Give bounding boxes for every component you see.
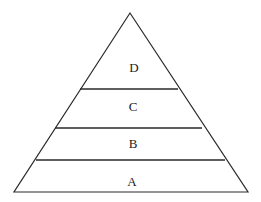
level-label-d: D [129, 60, 138, 75]
level-label-b: B [129, 136, 138, 151]
level-label-c: C [129, 99, 138, 114]
pyramid-diagram: D C B A [0, 0, 261, 202]
level-label-a: A [127, 174, 137, 189]
